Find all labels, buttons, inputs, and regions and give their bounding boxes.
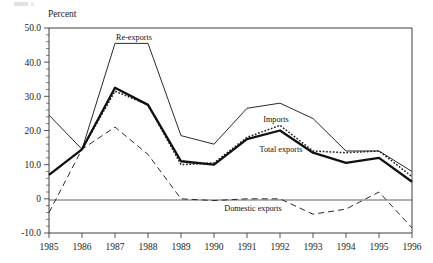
x-tick-label: 1991 — [238, 242, 257, 252]
line-chart-figure: Percent 50.040.030.020.010.00-10.0 19851… — [0, 0, 433, 263]
series-line-total-exports — [49, 88, 412, 182]
x-tick-label: 1985 — [40, 242, 59, 252]
series-label-total-exports: Total exports — [260, 145, 303, 154]
y-axis-tick-group: 50.040.030.020.010.00-10.0 — [21, 23, 49, 238]
series-label-re-exports: Re-exports — [116, 33, 152, 42]
series-label-imports: Imports — [263, 115, 288, 124]
x-tick-label: 1995 — [370, 242, 389, 252]
series-annotation-group: Re-exportsImportsTotal exportsDomestic e… — [116, 33, 302, 213]
y-tick-label: -10.0 — [21, 228, 41, 238]
x-tick-label: 1986 — [73, 242, 92, 252]
y-axis-label: Percent — [48, 9, 77, 19]
y-tick-label: 0 — [36, 194, 41, 204]
x-tick-label: 1989 — [172, 242, 191, 252]
x-tick-label: 1987 — [106, 242, 125, 252]
series-label-domestic-exports: Domestic exports — [224, 204, 282, 213]
x-tick-label: 1996 — [403, 242, 422, 252]
x-tick-label: 1990 — [205, 242, 224, 252]
y-tick-label: 10.0 — [24, 160, 41, 170]
series-line-imports — [49, 91, 412, 176]
y-tick-label: 20.0 — [24, 126, 41, 136]
x-axis-tick-group: 1985198619871988198919901991199219931994… — [40, 233, 422, 252]
y-tick-label: 40.0 — [24, 58, 41, 68]
scan-artifacts — [14, 2, 34, 6]
x-tick-label: 1988 — [139, 242, 158, 252]
plot-frame — [49, 28, 412, 233]
y-tick-label: 30.0 — [24, 92, 41, 102]
x-tick-label: 1992 — [271, 242, 290, 252]
x-tick-label: 1993 — [304, 242, 323, 252]
y-tick-label: 50.0 — [24, 23, 41, 33]
x-tick-label: 1994 — [337, 242, 356, 252]
chart-container: Percent 50.040.030.020.010.00-10.0 19851… — [0, 0, 433, 263]
